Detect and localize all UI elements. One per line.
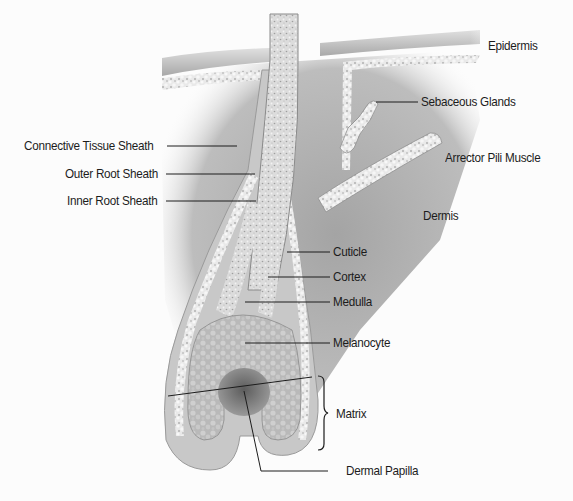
label-cortex: Cortex (333, 269, 366, 284)
label-cuticle: Cuticle (333, 244, 367, 259)
label-dermis: Dermis (423, 208, 458, 223)
label-sebaceous-glands: Sebaceous Glands (421, 94, 516, 109)
label-arrector-pili-muscle: Arrector Pili Muscle (445, 150, 540, 165)
label-epidermis: Epidermis (488, 38, 538, 53)
hair-follicle-diagram: Epidermis Sebaceous Glands Connective Ti… (0, 0, 573, 501)
follicle-illustration (0, 0, 573, 501)
label-connective-tissue-sheath: Connective Tissue Sheath (24, 138, 153, 153)
label-inner-root-sheath: Inner Root Sheath (67, 193, 157, 208)
label-matrix: Matrix (336, 406, 366, 421)
label-melanocyte: Melanocyte (333, 335, 390, 350)
label-dermal-papilla: Dermal Papilla (346, 463, 418, 478)
label-medulla: Medulla (333, 294, 372, 309)
label-outer-root-sheath: Outer Root Sheath (65, 166, 158, 181)
